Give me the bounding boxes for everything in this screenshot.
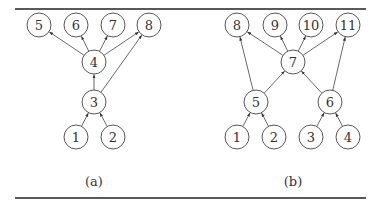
node-label: 6 [72,18,80,33]
node-7: 7 [281,50,305,74]
panel-a: 56784312 (a) [27,13,161,189]
node-8: 8 [137,13,161,37]
node-label: 10 [303,18,320,33]
node-label: 4 [90,55,98,70]
edge-5-to-8 [240,37,253,90]
panel-b: 8910117561234 (b) [225,13,360,189]
edge-2-to-3 [100,113,107,126]
edge-1-to-5 [243,113,250,126]
node-9: 9 [263,13,287,37]
edge-1-to-3 [81,113,88,126]
node-label: 5 [35,18,43,33]
node-8: 8 [225,13,249,37]
node-label: 3 [307,130,315,145]
node-label: 1 [233,130,241,145]
edge-5-to-7 [264,71,284,93]
nodes-b: 8910117561234 [225,13,360,149]
node-label: 3 [90,95,98,110]
node-label: 7 [109,18,117,33]
node-5: 5 [27,13,51,37]
node-3: 3 [299,125,323,149]
node-1: 1 [225,125,249,149]
node-label: 9 [271,18,279,33]
edge-6-to-7 [301,71,321,93]
node-label: 1 [72,130,80,145]
node-11: 11 [336,13,360,37]
node-label: 7 [289,55,297,70]
node-4: 4 [82,50,106,74]
node-label: 4 [344,130,352,145]
node-5: 5 [244,90,268,114]
node-label: 2 [270,130,278,145]
node-2: 2 [101,125,125,149]
node-label: 5 [252,95,260,110]
node-label: 8 [233,18,241,33]
edge-6-to-11 [333,37,345,90]
edge-4-to-6 [81,36,88,51]
graph-figure: 56784312 (a) 8910117561234 (b) [0,0,380,201]
node-4: 4 [336,125,360,149]
node-6: 6 [64,13,88,37]
edge-2-to-5 [262,113,269,126]
node-2: 2 [262,125,286,149]
node-7: 7 [101,13,125,37]
node-label: 2 [109,130,117,145]
node-6: 6 [318,90,342,114]
node-label: 6 [326,95,334,110]
edge-3-to-6 [317,113,324,126]
node-label: 8 [145,18,153,33]
caption-a: (a) [85,174,103,189]
edge-4-to-7 [99,36,107,51]
edge-7-to-10 [298,36,305,51]
edge-7-to-9 [280,36,287,51]
node-1: 1 [64,125,88,149]
node-3: 3 [82,90,106,114]
node-10: 10 [299,13,323,37]
caption-b: (b) [284,174,302,189]
edge-4-to-6 [336,113,343,126]
node-label: 11 [340,18,357,33]
